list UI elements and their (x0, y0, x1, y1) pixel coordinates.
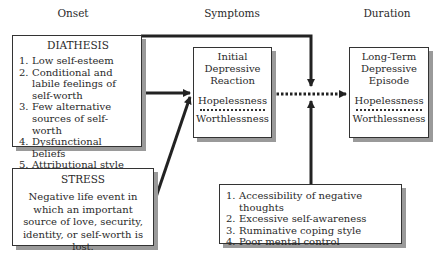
dotted-divider (356, 109, 422, 111)
longterm-title-line: Depressive (352, 63, 426, 75)
list-item: 2.Excessive self-awareness (226, 213, 399, 225)
maintaining-factors-box: 1.Accessibility of negative thoughts 2.E… (219, 184, 402, 244)
longterm-worthlessness: Worthlessness (352, 113, 426, 125)
initial-worthlessness: Worthlessness (196, 113, 269, 125)
list-item: 1.Accessibility of negative thoughts (226, 190, 399, 213)
stress-title: STRESS (16, 173, 150, 186)
maintaining-factors-list: 1.Accessibility of negative thoughts 2.E… (226, 190, 399, 248)
longterm-title-line: Long-Term (352, 51, 426, 63)
initial-title-line: Initial (196, 51, 269, 63)
initial-title-line: Reaction (196, 75, 269, 87)
longterm-title-line: Episode (352, 75, 426, 87)
diathesis-box: DIATHESIS 1.Low self-esteem 2.Conditiona… (12, 35, 142, 147)
list-item: 1.Low self-esteem (19, 55, 137, 67)
list-item: 4.Poor mental control (226, 236, 399, 248)
list-item: 3.Ruminative coping style (226, 225, 399, 237)
initial-hopelessness: Hopelessness (196, 95, 269, 107)
long-term-episode-box: Long-Term Depressive Episode Hopelessnes… (349, 47, 429, 138)
dotted-divider (200, 109, 265, 111)
initial-reaction-box: Initial Depressive Reaction Hopelessness… (193, 47, 272, 138)
stress-box: STRESS Negative life event in which an i… (12, 168, 154, 246)
longterm-hopelessness: Hopelessness (352, 95, 426, 107)
diathesis-list: 1.Low self-esteem 2.Conditional and labi… (19, 55, 137, 171)
diathesis-title: DIATHESIS (19, 39, 137, 52)
stress-description: Negative life event in which an importan… (16, 191, 150, 254)
initial-title-line: Depressive (196, 63, 269, 75)
list-item: 4.Dysfunctional beliefs (19, 136, 137, 159)
list-item: 3.Few alternative sources of self-worth (19, 101, 137, 136)
list-item: 2.Conditional and labile feelings of sel… (19, 67, 137, 102)
